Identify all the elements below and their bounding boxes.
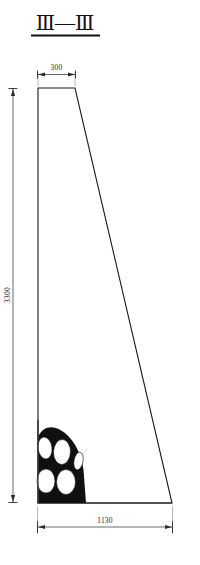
page-title: Ⅲ—Ⅲ <box>36 12 95 34</box>
drawing-title-group: Ⅲ—Ⅲ <box>31 12 100 36</box>
dimension-top-width: 300 <box>38 63 76 86</box>
dimension-label-top-width: 300 <box>51 63 63 72</box>
dimension-height: 3300 <box>3 88 18 503</box>
arrowhead-bottom-right-icon <box>165 525 172 529</box>
dimension-bottom-width: 1130 <box>38 506 173 534</box>
pipe-void-3 <box>37 469 55 493</box>
arrowhead-top-left-icon <box>38 72 45 76</box>
dimension-label-height: 3300 <box>3 287 12 303</box>
arrowhead-height-bottom-icon <box>11 495 15 502</box>
section-drawing-canvas: Ⅲ—Ⅲ 300 3300 <box>0 0 200 565</box>
arrowhead-top-right-icon <box>68 72 75 76</box>
arrowhead-bottom-left-icon <box>38 525 45 529</box>
arrowhead-height-top-icon <box>11 89 15 96</box>
pipe-void-4 <box>57 470 76 495</box>
dimension-label-bottom-width: 1130 <box>97 516 113 525</box>
section-drawing-svg: Ⅲ—Ⅲ 300 3300 <box>0 0 200 565</box>
